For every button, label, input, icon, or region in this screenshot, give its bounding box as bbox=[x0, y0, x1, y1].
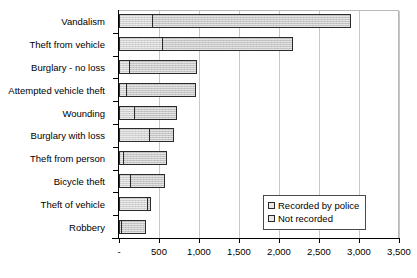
x-axis-tick-label: 1,500 bbox=[227, 246, 251, 258]
category-tick bbox=[113, 215, 118, 216]
x-axis-tick-label: 3,000 bbox=[347, 246, 371, 258]
x-axis-tick-label: 1,000 bbox=[187, 246, 211, 258]
x-axis-ticks bbox=[119, 238, 399, 244]
category-tick bbox=[113, 33, 118, 34]
legend-item-recorded: Recorded by police bbox=[268, 199, 359, 212]
bar-segment-not-recorded bbox=[129, 60, 197, 74]
bar-segment-recorded-by-police bbox=[119, 106, 135, 120]
x-axis-tick bbox=[239, 238, 240, 243]
x-axis-tick-label: 3,500 bbox=[387, 246, 411, 258]
category-tick bbox=[113, 101, 118, 102]
bar-row bbox=[119, 60, 197, 74]
bar-segment-recorded-by-police bbox=[119, 37, 163, 51]
category-label: Bicycle theft bbox=[54, 176, 105, 187]
chart-legend: Recorded by police Not recorded bbox=[263, 195, 366, 230]
category-tick bbox=[113, 238, 118, 239]
bar-segment-not-recorded bbox=[126, 83, 196, 97]
category-tick bbox=[113, 147, 118, 148]
category-label: Attempted vehicle theft bbox=[8, 84, 105, 95]
bar-segment-not-recorded bbox=[130, 174, 165, 188]
bar-row bbox=[119, 106, 177, 120]
category-tick bbox=[113, 124, 118, 125]
bar-segment-recorded-by-police bbox=[119, 14, 153, 28]
category-axis: VandalismTheft from vehicleBurglary - no… bbox=[0, 10, 112, 238]
x-axis-tick bbox=[159, 238, 160, 243]
bar-row bbox=[119, 174, 165, 188]
bar-segment-not-recorded bbox=[152, 14, 351, 28]
category-tick bbox=[113, 170, 118, 171]
x-axis-tick bbox=[399, 238, 400, 243]
bar-row bbox=[119, 220, 146, 234]
x-axis-tick-label: 2,000 bbox=[267, 246, 291, 258]
bar-row bbox=[119, 128, 174, 142]
bar-row bbox=[119, 37, 293, 51]
bar-segment-not-recorded bbox=[123, 151, 167, 165]
legend-label-not-recorded: Not recorded bbox=[278, 213, 333, 224]
category-label: Burglary with loss bbox=[31, 130, 105, 141]
category-label: Vandalism bbox=[61, 16, 105, 27]
category-label: Burglary - no loss bbox=[31, 62, 105, 73]
bar-segment-recorded-by-police bbox=[119, 128, 150, 142]
bar-segment-not-recorded bbox=[162, 37, 293, 51]
category-tick bbox=[113, 56, 118, 57]
gridline bbox=[399, 11, 400, 238]
category-tick bbox=[113, 78, 118, 79]
bar-segment-not-recorded bbox=[147, 197, 151, 211]
bar-segment-not-recorded bbox=[149, 128, 174, 142]
x-axis-tick bbox=[199, 238, 200, 243]
x-axis-tick-label: 500 bbox=[151, 246, 167, 258]
bar-row bbox=[119, 83, 196, 97]
x-axis-tick bbox=[319, 238, 320, 243]
category-label: Theft of vehicle bbox=[41, 198, 105, 209]
category-label: Wounding bbox=[62, 107, 105, 118]
legend-swatch-not-recorded-icon bbox=[268, 215, 275, 222]
bar-segment-not-recorded bbox=[134, 106, 177, 120]
bar-row bbox=[119, 14, 351, 28]
x-axis-tick bbox=[359, 238, 360, 243]
category-label: Theft from person bbox=[30, 153, 105, 164]
category-label: Theft from vehicle bbox=[30, 39, 106, 50]
x-axis-tick bbox=[279, 238, 280, 243]
bar-segment-recorded-by-police bbox=[119, 197, 148, 211]
x-axis-tick-label: - bbox=[117, 246, 120, 258]
bar-row bbox=[119, 197, 151, 211]
stacked-bar-chart: VandalismTheft from vehicleBurglary - no… bbox=[0, 0, 417, 278]
category-label: Robbery bbox=[69, 221, 105, 232]
x-axis-tick-label: 2,500 bbox=[307, 246, 331, 258]
legend-swatch-recorded-icon bbox=[268, 202, 275, 209]
x-axis-tick-labels: -5001,0001,5002,0002,5003,0003,500 bbox=[0, 246, 417, 262]
legend-item-not-recorded: Not recorded bbox=[268, 212, 359, 225]
bar-segment-not-recorded bbox=[121, 220, 146, 234]
x-axis-tick bbox=[119, 238, 120, 243]
bar-row bbox=[119, 151, 167, 165]
legend-label-recorded: Recorded by police bbox=[278, 200, 359, 211]
category-tick bbox=[113, 192, 118, 193]
